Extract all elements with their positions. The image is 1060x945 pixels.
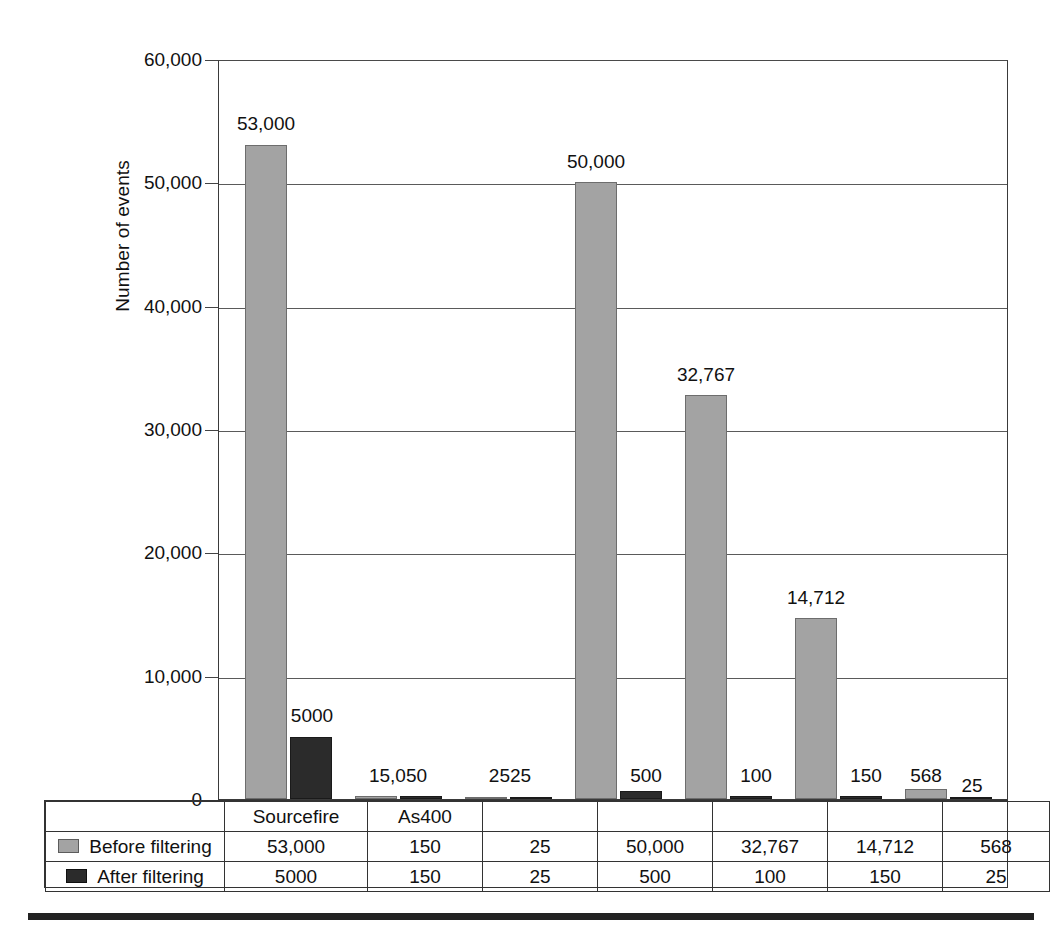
category-label-cell [943,802,1050,832]
bar-value-label: 500 [630,765,662,787]
legend-swatch-icon [58,839,79,853]
data-cell: 150 [828,862,943,892]
bar-before-filtering [245,145,287,799]
y-tick-mark [205,430,218,431]
bar-before-filtering [685,395,727,799]
bar-value-label: 150 [850,765,882,787]
data-table: SourcefireAs400Before filtering53,000150… [44,800,1008,888]
y-tick-label: 60,000 [52,49,202,71]
category-label-cell [483,802,598,832]
table-row: Before filtering53,0001502550,00032,7671… [46,832,1050,862]
y-tick-label: 50,000 [52,172,202,194]
data-cell: 500 [598,862,713,892]
legend-header-spacer [46,802,225,832]
data-cell: 100 [713,862,828,892]
y-tick-mark [205,60,218,61]
data-cell: 25 [483,862,598,892]
bar-value-label: 5000 [291,705,333,727]
y-tick-mark [205,307,218,308]
data-cell: 14,712 [828,832,943,862]
bar-after-filtering [620,791,662,799]
category-label-cell [713,802,828,832]
bottom-divider-rule [28,913,1034,920]
y-tick-mark [205,183,218,184]
y-tick-label: 20,000 [52,542,202,564]
bar-before-filtering [355,796,397,799]
data-table-grid: SourcefireAs400Before filtering53,000150… [45,801,1050,892]
bar-after-filtering [950,797,992,799]
table-row-categories: SourcefireAs400 [46,802,1050,832]
bar-value-label: 2525 [489,765,531,787]
data-cell: 32,767 [713,832,828,862]
y-axis-title: Number of events [112,106,134,366]
y-tick-mark [205,553,218,554]
legend-item-before-filtering: Before filtering [46,832,225,862]
bar-after-filtering [290,737,332,799]
bar-before-filtering [575,182,617,799]
category-label-cell: Sourcefire [225,802,368,832]
y-tick-label: 30,000 [52,419,202,441]
category-label-cell [828,802,943,832]
legend-item-after-filtering: After filtering [46,862,225,892]
bar-value-label: 568 [910,765,942,787]
table-row: After filtering50001502550010015025 [46,862,1050,892]
bar-before-filtering [465,797,507,799]
y-tick-label: 40,000 [52,296,202,318]
data-cell: 150 [368,832,483,862]
data-cell: 5000 [225,862,368,892]
category-label-cell: As400 [368,802,483,832]
chart-figure: Number of events 60,00050,00040,00030,00… [0,0,1060,945]
bar-value-label: 53,000 [237,113,295,135]
y-tick-mark [205,677,218,678]
legend-label: Before filtering [89,836,212,857]
bar-after-filtering [840,796,882,799]
bar-after-filtering [510,797,552,799]
bar-value-label: 50,000 [567,151,625,173]
data-cell: 25 [483,832,598,862]
bar-before-filtering [905,789,947,799]
legend-swatch-icon [66,869,87,883]
category-label-cell [598,802,713,832]
data-cell: 25 [943,862,1050,892]
bar-value-label: 14,712 [787,587,845,609]
bar-before-filtering [795,618,837,799]
bar-value-label: 32,767 [677,364,735,386]
data-cell: 50,000 [598,832,713,862]
bar-value-label: 15,050 [369,765,427,787]
bar-after-filtering [400,796,442,799]
bar-after-filtering [730,796,772,799]
bar-value-label: 25 [961,775,982,797]
legend-label: After filtering [97,866,204,887]
data-cell: 568 [943,832,1050,862]
y-tick-label: 10,000 [52,666,202,688]
data-cell: 150 [368,862,483,892]
bar-value-label: 100 [740,765,772,787]
data-cell: 53,000 [225,832,368,862]
